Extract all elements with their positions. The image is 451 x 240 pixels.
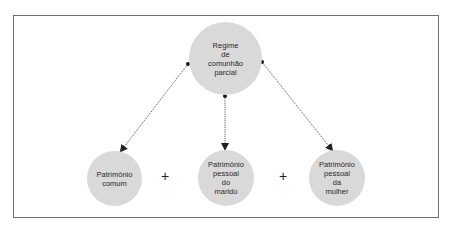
node-label: Regime de comunhão parcial [208, 41, 243, 77]
node-label: Patrimônio pessoal do marido [208, 160, 244, 196]
node-patrimonio-comum: Patrimônio comum [87, 151, 142, 206]
node-regime-comunhao-parcial: Regime de comunhão parcial [189, 22, 262, 95]
plus-operator: + [161, 169, 169, 183]
node-label: Patrimônio comum [97, 170, 133, 188]
arrow-to-patrimonio-mulher [260, 60, 332, 150]
arrow-to-patrimonio-marido [223, 94, 227, 149]
node-label: Patrimônio pessoal da mulher [319, 160, 355, 196]
node-patrimonio-pessoal-marido: Patrimônio pessoal do marido [198, 150, 254, 206]
node-patrimonio-pessoal-mulher: Patrimônio pessoal da mulher [309, 150, 365, 206]
plus-operator: + [279, 169, 287, 183]
arrow-to-patrimonio-comum [121, 62, 190, 151]
